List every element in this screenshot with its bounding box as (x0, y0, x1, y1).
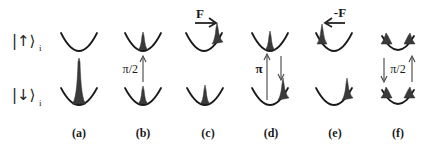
panel-label: (a) (72, 126, 86, 140)
panel-a: (a) (61, 33, 97, 140)
state-label-down: |↓⟩ i (12, 86, 42, 108)
force-label: F (196, 6, 204, 21)
pulse-label: π/2 (123, 62, 138, 76)
wavepacket-peak (138, 86, 148, 104)
pulse-arrow-up (264, 54, 270, 100)
pulse-arrow-down (278, 56, 284, 80)
wavepacket-peak (72, 58, 86, 104)
diagram: |↑⟩ i |↓⟩ i (a) π/2 (b) F (0, 0, 429, 147)
panel-f: π/2 (f) (381, 33, 415, 140)
panel-d: π (d) (252, 31, 289, 140)
panel-label: (e) (328, 126, 341, 140)
pulse-arrow-up (409, 56, 415, 82)
wavepacket-peak (200, 85, 210, 104)
pulse-label: π/2 (390, 62, 405, 76)
svg-text:|↑⟩: |↑⟩ (12, 32, 35, 50)
force-label: -F (334, 5, 346, 20)
panel-e: -F (e) (316, 5, 353, 140)
state-label-up: |↑⟩ i (12, 32, 42, 53)
potential-well-upper (61, 33, 97, 51)
panel-b: π/2 (b) (123, 32, 161, 140)
wavepacket-peak (138, 32, 148, 50)
svg-text:|↓⟩: |↓⟩ (12, 86, 35, 104)
svg-text:i: i (39, 43, 42, 53)
pulse-arrow-down (381, 58, 387, 82)
wavepacket-peak (265, 31, 275, 50)
panel-c: F (c) (186, 6, 223, 140)
svg-text:i: i (39, 98, 42, 108)
panel-label: (d) (264, 126, 279, 140)
pulse-label: π (255, 61, 262, 76)
panel-label: (b) (136, 126, 151, 140)
wavepacket-peak (317, 24, 327, 44)
pulse-arrow-up (140, 56, 146, 82)
panel-label: (c) (201, 126, 214, 140)
panel-label: (f) (392, 126, 404, 140)
